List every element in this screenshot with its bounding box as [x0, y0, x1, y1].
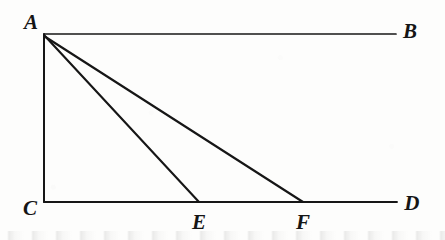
- vertex-label-c: C: [23, 198, 37, 219]
- vertex-label-e: E: [192, 212, 206, 233]
- segment-AF: [44, 36, 303, 202]
- segment-AE: [44, 35, 199, 202]
- geometry-figure: A B C D E F: [0, 0, 445, 240]
- vertex-label-f: F: [296, 212, 310, 233]
- vertex-label-d: D: [404, 193, 419, 214]
- figure-canvas: [0, 0, 445, 240]
- segment-group: [44, 34, 397, 202]
- vertex-label-b: B: [403, 21, 417, 42]
- vertex-label-a: A: [24, 12, 38, 33]
